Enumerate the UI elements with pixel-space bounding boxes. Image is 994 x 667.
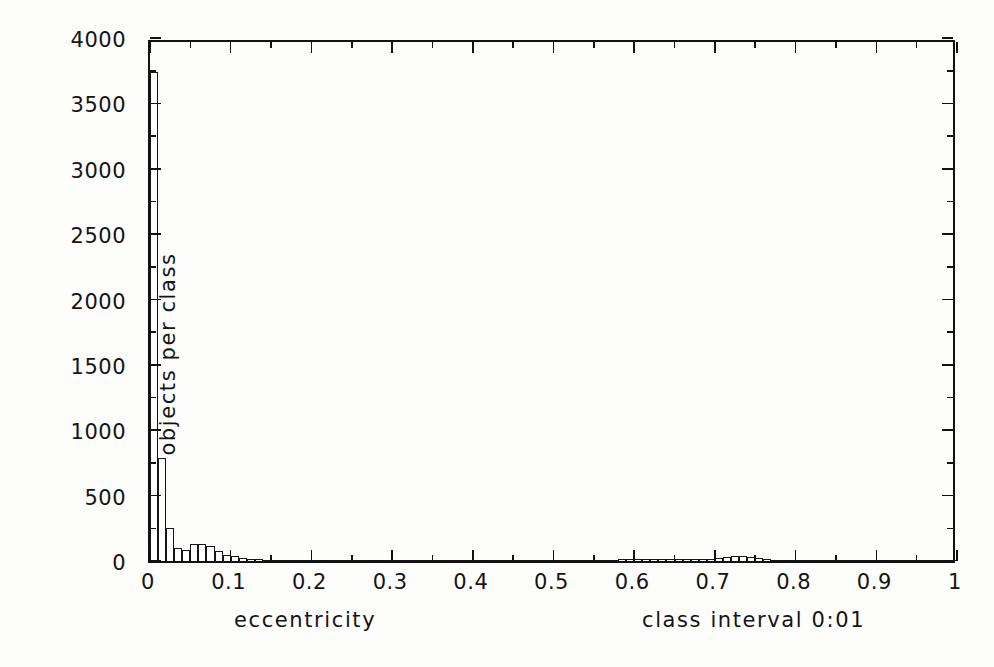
- x-axis-tick: [633, 550, 635, 561]
- histogram-bar: [311, 560, 319, 561]
- histogram-bar: [570, 560, 578, 561]
- histogram-bar: [416, 560, 424, 561]
- x-axis-tick-label: 0.3: [373, 570, 408, 594]
- histogram-bar: [771, 560, 779, 561]
- x-axis-tick: [351, 42, 353, 48]
- x-axis-tick: [593, 555, 595, 561]
- x-axis-tick-label: 0.2: [292, 570, 327, 594]
- x-axis-tick: [149, 42, 151, 53]
- histogram-bar: [198, 544, 206, 561]
- histogram-bar: [876, 560, 884, 561]
- histogram-bar: [441, 560, 449, 561]
- y-axis-tick: [942, 37, 953, 39]
- x-axis-tick: [432, 555, 434, 561]
- histogram-bar: [537, 560, 545, 561]
- histogram-bar: [497, 560, 505, 561]
- y-axis-tick: [150, 560, 161, 562]
- histogram-bar: [796, 560, 804, 561]
- x-axis-tick: [674, 555, 676, 561]
- histogram-bar: [731, 556, 739, 561]
- histogram-bar: [812, 560, 820, 561]
- x-axis-tick: [553, 550, 555, 561]
- y-axis-tick-label: 500: [84, 486, 126, 510]
- x-axis-tick: [835, 555, 837, 561]
- histogram-bar: [715, 558, 723, 561]
- x-axis-tick: [835, 42, 837, 48]
- histogram-bar: [554, 560, 562, 561]
- x-axis-tick: [916, 42, 918, 48]
- histogram-bar: [779, 560, 787, 561]
- plot-frame: objects per class: [148, 40, 955, 563]
- histogram-bar: [255, 559, 263, 561]
- histogram-bar: [925, 560, 933, 561]
- x-axis-title: eccentricity: [234, 608, 376, 632]
- histogram-bar: [852, 560, 860, 561]
- y-axis-tick-label: 2000: [71, 290, 126, 314]
- histogram-bar: [239, 558, 247, 561]
- histogram-bar: [319, 560, 327, 561]
- y-axis-tick: [947, 331, 953, 333]
- histogram-bar: [650, 559, 658, 561]
- y-axis-tick: [942, 103, 953, 105]
- y-axis-tick-label: 4000: [71, 28, 126, 52]
- y-axis-tick: [942, 364, 953, 366]
- x-axis-tick-label: 0.9: [857, 570, 892, 594]
- y-axis-tick: [942, 299, 953, 301]
- x-axis-tick: [754, 42, 756, 48]
- x-axis-tick-label: 1: [948, 570, 962, 594]
- y-axis-tick: [947, 70, 953, 72]
- x-axis-tick: [432, 42, 434, 48]
- histogram-bar: [763, 559, 771, 561]
- histogram-bar: [481, 560, 489, 561]
- x-axis-tick: [351, 555, 353, 561]
- histogram-bar: [408, 560, 416, 561]
- y-axis-tick-label: 1500: [71, 355, 126, 379]
- histogram-bar: [901, 560, 909, 561]
- x-axis-tick: [916, 555, 918, 561]
- y-axis-tick-label: 0: [112, 551, 126, 575]
- x-axis-tick: [472, 42, 474, 53]
- histogram-bar: [392, 560, 400, 561]
- y-axis-tick: [942, 429, 953, 431]
- histogram-bar: [618, 559, 626, 561]
- histogram-bar: [449, 560, 457, 561]
- y-axis-tick: [942, 168, 953, 170]
- y-axis-tick: [150, 70, 156, 72]
- y-axis-tick: [947, 397, 953, 399]
- histogram-bar: [699, 559, 707, 561]
- y-axis-tick: [942, 233, 953, 235]
- histogram-bar: [683, 559, 691, 561]
- x-axis-tick: [795, 42, 797, 53]
- histogram-bar: [360, 560, 368, 561]
- histogram-bar: [231, 556, 239, 561]
- histogram-bar: [247, 559, 255, 561]
- x-axis-tick: [270, 555, 272, 561]
- x-axis-tick-label: 0.6: [615, 570, 650, 594]
- x-axis-tick: [795, 550, 797, 561]
- y-axis-tick-label: 3500: [71, 93, 126, 117]
- y-axis-tick: [947, 462, 953, 464]
- histogram-bar: [602, 560, 610, 561]
- x-axis-tick-label: 0.1: [211, 570, 246, 594]
- plot-area: [150, 42, 953, 561]
- x-axis-tick: [311, 550, 313, 561]
- y-axis-tick: [947, 201, 953, 203]
- y-axis-tick: [942, 495, 953, 497]
- x-axis-tick-label: 0.5: [534, 570, 569, 594]
- histogram-bar: [844, 560, 852, 561]
- y-axis-tick: [947, 266, 953, 268]
- histogram-bar: [473, 560, 481, 561]
- histogram-bar: [174, 548, 182, 561]
- histogram-bar: [820, 560, 828, 561]
- histogram-bar: [755, 558, 763, 561]
- y-axis-tick: [150, 103, 161, 105]
- histogram-bar: [739, 556, 747, 561]
- histogram-bar: [594, 560, 602, 561]
- x-axis-tick: [633, 42, 635, 53]
- y-axis-title: objects per class: [156, 164, 180, 544]
- histogram-bar: [529, 560, 537, 561]
- histogram-bar: [287, 560, 295, 561]
- x-axis-tick: [230, 42, 232, 53]
- y-axis-tick-label: 3000: [71, 159, 126, 183]
- x-axis-tick: [714, 550, 716, 561]
